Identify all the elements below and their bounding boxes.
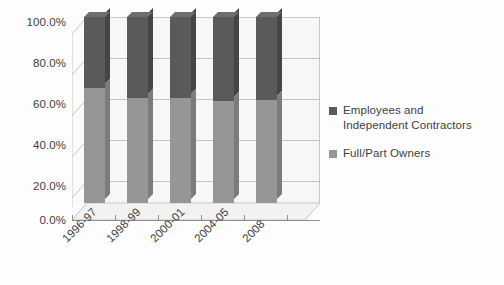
x-axis-tick-label: 1996-97 bbox=[60, 206, 99, 245]
legend-label-line-1: Employees and bbox=[343, 104, 424, 116]
legend-item[interactable]: Full/Part Owners bbox=[329, 146, 501, 161]
chart-legend: Employees and Independent Contractors Fu… bbox=[329, 103, 501, 174]
legend-item-label: Full/Part Owners bbox=[343, 146, 430, 161]
legend-label-line-1: Full/Part Owners bbox=[343, 147, 430, 159]
legend-swatch-icon bbox=[329, 107, 337, 115]
x-axis-tick-label: 2004-05 bbox=[192, 206, 231, 245]
legend-item-label: Employees and Independent Contractors bbox=[343, 103, 472, 133]
chart-container: 100.0% 80.0% 60.0% 40.0% 20.0% 0.0% bbox=[0, 0, 504, 285]
legend-item[interactable]: Employees and Independent Contractors bbox=[329, 103, 501, 133]
x-axis-tick-label: 1998-99 bbox=[104, 206, 143, 245]
x-axis-tick-label: 2008 bbox=[240, 218, 267, 245]
legend-label-line-2: Independent Contractors bbox=[343, 119, 472, 131]
legend-swatch-icon bbox=[329, 150, 337, 158]
x-axis-tick-label: 2000-01 bbox=[148, 206, 187, 245]
